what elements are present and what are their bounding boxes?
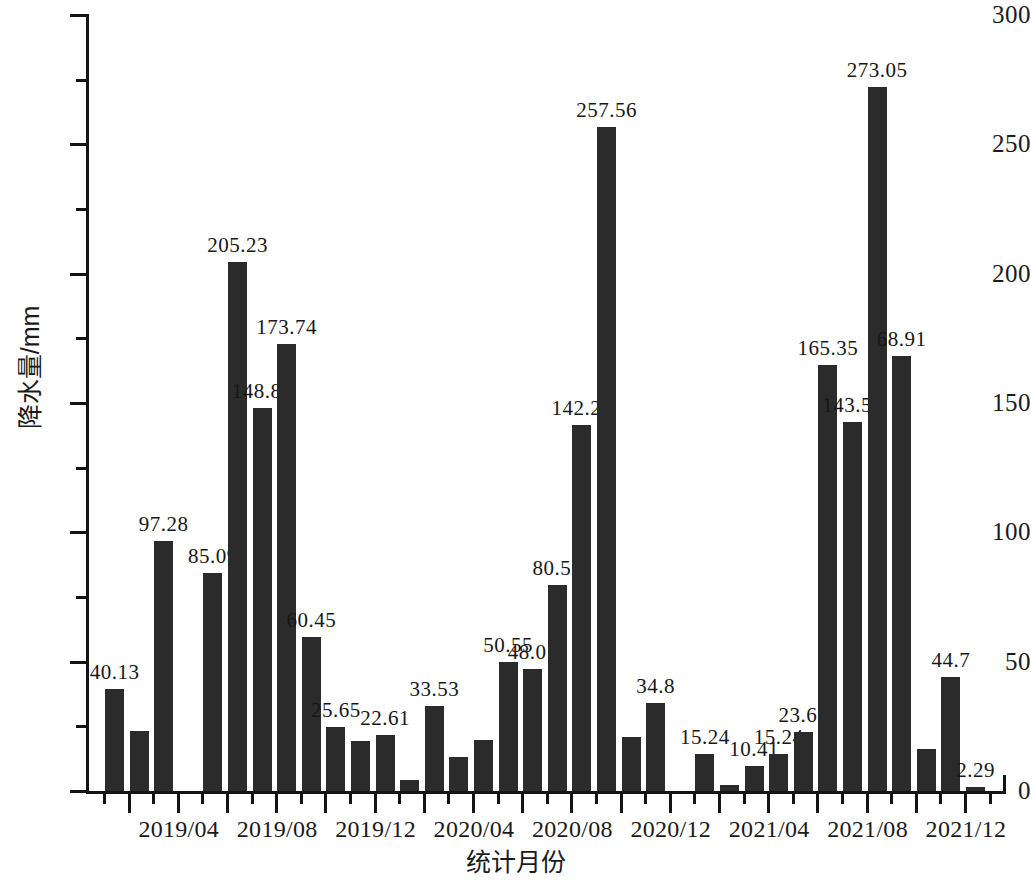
bar-value-label: 2.29 xyxy=(956,759,995,781)
x-axis-title: 统计月份 xyxy=(0,849,1031,876)
x-tick-minor xyxy=(841,794,844,804)
x-tick-major xyxy=(275,794,278,813)
x-tick-label: 2020/08 xyxy=(532,816,613,842)
x-tick-minor xyxy=(890,794,893,804)
x-tick-minor xyxy=(251,794,254,804)
bar xyxy=(499,662,518,793)
bar xyxy=(376,735,395,793)
x-tick-minor xyxy=(693,794,696,804)
bar xyxy=(892,356,911,793)
x-tick-minor xyxy=(939,794,942,804)
bar-value-label: 34.8 xyxy=(636,675,675,697)
x-tick-minor xyxy=(989,794,992,804)
x-tick-minor xyxy=(103,794,106,804)
x-tick-minor xyxy=(398,794,401,804)
bar xyxy=(843,422,862,793)
bar-value-label: 205.23 xyxy=(207,234,268,256)
bar xyxy=(868,87,887,793)
x-tick-minor xyxy=(792,794,795,804)
bar-value-label: 40.13 xyxy=(90,661,140,683)
x-tick-minor xyxy=(349,794,352,804)
x-tick-label: 2021/04 xyxy=(729,816,810,842)
bar xyxy=(425,706,444,793)
x-tick-major xyxy=(718,794,721,813)
x-tick-major xyxy=(521,794,524,813)
bar-value-label: 97.28 xyxy=(139,513,189,535)
x-tick-major xyxy=(866,794,869,813)
bar xyxy=(572,425,591,793)
bar xyxy=(228,262,247,793)
x-tick-major xyxy=(816,794,819,813)
bar xyxy=(154,541,173,793)
x-axis-right-cap xyxy=(1003,775,1006,794)
x-tick-major xyxy=(128,794,131,813)
bar xyxy=(253,408,272,793)
x-tick-label: 2019/04 xyxy=(138,816,219,842)
x-tick-label: 2021/08 xyxy=(827,816,908,842)
x-tick-label: 2020/04 xyxy=(434,816,515,842)
bar-value-label: 257.56 xyxy=(576,99,637,121)
x-tick-minor xyxy=(595,794,598,804)
bar xyxy=(646,703,665,793)
x-tick-major xyxy=(324,794,327,813)
bar-value-label: 22.61 xyxy=(360,707,410,729)
x-tick-minor xyxy=(743,794,746,804)
x-tick-major xyxy=(177,794,180,813)
bar-value-label: 15.24 xyxy=(680,726,730,748)
bar xyxy=(695,754,714,793)
x-tick-label: 2020/12 xyxy=(630,816,711,842)
bar xyxy=(794,732,813,793)
bar-value-label: 44.7 xyxy=(932,649,971,671)
bar-value-label: 68.91 xyxy=(877,328,927,350)
x-tick-label: 2019/08 xyxy=(237,816,318,842)
bar xyxy=(449,757,468,793)
bar xyxy=(326,727,345,793)
bar xyxy=(351,741,370,793)
bar xyxy=(203,573,222,793)
bar-value-label: 173.74 xyxy=(256,316,317,338)
x-tick-major xyxy=(669,794,672,813)
x-tick-minor xyxy=(300,794,303,804)
x-tick-minor xyxy=(497,794,500,804)
x-tick-label: 2021/12 xyxy=(926,816,1007,842)
x-tick-minor xyxy=(546,794,549,804)
x-tick-major xyxy=(767,794,770,813)
bar xyxy=(745,766,764,793)
bar xyxy=(277,344,296,793)
bars-layer: 40.1397.2885.09205.23148.84173.7460.4525… xyxy=(0,0,1031,882)
x-tick-label: 2019/12 xyxy=(335,816,416,842)
bar xyxy=(130,731,149,793)
x-tick-major xyxy=(620,794,623,813)
x-tick-minor xyxy=(644,794,647,804)
bar xyxy=(622,737,641,793)
bar-value-label: 25.65 xyxy=(311,699,361,721)
bar-value-label: 165.35 xyxy=(798,337,859,359)
bar-value-label: 33.53 xyxy=(409,678,459,700)
bar xyxy=(105,689,124,793)
x-tick-major xyxy=(472,794,475,813)
bar xyxy=(548,585,567,793)
x-tick-minor xyxy=(447,794,450,804)
x-tick-major xyxy=(226,794,229,813)
precipitation-bar-chart: 050100150200250300 降水量/mm 40.1397.2885.0… xyxy=(0,0,1031,882)
bar-value-label: 273.05 xyxy=(847,59,908,81)
bar xyxy=(474,740,493,793)
x-tick-major xyxy=(570,794,573,813)
x-tick-major xyxy=(964,794,967,813)
x-tick-major xyxy=(423,794,426,813)
bar-value-label: 60.45 xyxy=(286,609,336,631)
bar xyxy=(769,754,788,793)
x-tick-major xyxy=(915,794,918,813)
x-tick-major xyxy=(374,794,377,813)
bar xyxy=(917,749,936,793)
bar xyxy=(523,669,542,793)
bar xyxy=(597,127,616,793)
bar xyxy=(818,365,837,793)
x-tick-minor xyxy=(201,794,204,804)
x-tick-minor xyxy=(152,794,155,804)
